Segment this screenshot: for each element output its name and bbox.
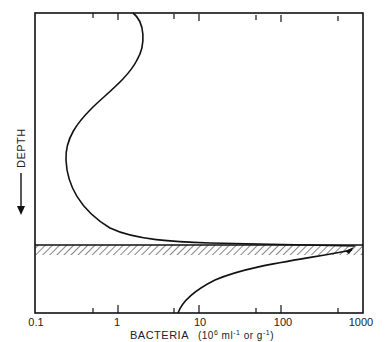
sediment-curve bbox=[178, 250, 352, 313]
x-tick-label: 0.1 bbox=[28, 316, 43, 328]
x-axis-top-ticks bbox=[93, 13, 338, 22]
interface-band bbox=[35, 245, 363, 255]
depth-arrow-icon bbox=[17, 173, 25, 215]
y-axis-title: DEPTH bbox=[15, 128, 27, 168]
x-tick-label: 100 bbox=[274, 316, 292, 328]
x-tick-label: 10 bbox=[194, 316, 206, 328]
x-axis-title: BACTERIA (106 ml-1 or g-1) bbox=[130, 329, 274, 341]
x-tick-label: 1000 bbox=[349, 316, 373, 328]
x-tick-label: 1 bbox=[114, 316, 120, 328]
chart: 0.1 1 10 100 1000 BACTERIA (106 ml-1 or … bbox=[0, 0, 386, 342]
plot-frame bbox=[35, 13, 363, 313]
water-column-curve bbox=[66, 13, 355, 246]
x-axis-ticks bbox=[93, 305, 338, 313]
